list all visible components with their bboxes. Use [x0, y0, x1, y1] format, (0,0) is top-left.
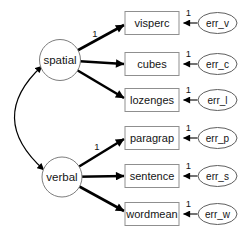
loading-weight-label-verbal-paragrap: 1 [94, 141, 99, 152]
error-weight-label-err-l: 1 [186, 84, 191, 95]
error-label-err-w: err_w [205, 209, 231, 220]
error-weight-label-err-c: 1 [186, 48, 191, 59]
error-weight-label-err-p: 1 [186, 122, 191, 133]
error-label-err-p: err_p [206, 133, 230, 144]
observed-label-visperc: visperc [135, 17, 170, 29]
error-weight-label-err-w: 1 [186, 198, 191, 209]
observed-label-lozenges: lozenges [130, 94, 175, 106]
error-label-err-s: err_s [206, 171, 229, 182]
latent-label-verbal: verbal [46, 171, 77, 183]
error-weight-label-err-v: 1 [186, 7, 191, 18]
diagram-canvas: spatial verbal visperc cubes lozenges pa… [0, 0, 246, 237]
error-label-err-v: err_v [206, 18, 229, 29]
observed-label-paragrap: paragrap [130, 132, 174, 144]
error-weight-label-err-s: 1 [186, 160, 191, 171]
error-label-err-l: err_l [207, 95, 227, 106]
observed-label-wordmean: wordmean [125, 208, 177, 220]
observed-label-sentence: sentence [130, 170, 175, 182]
error-label-err-c: err_c [206, 59, 229, 70]
sem-path-diagram: spatial verbal visperc cubes lozenges pa… [0, 0, 246, 237]
observed-label-cubes: cubes [137, 58, 167, 70]
latent-label-spatial: spatial [43, 54, 76, 66]
covariance-arrow-spatial-verbal [14, 66, 44, 170]
loading-weight-label-spatial-visperc: 1 [92, 28, 97, 39]
